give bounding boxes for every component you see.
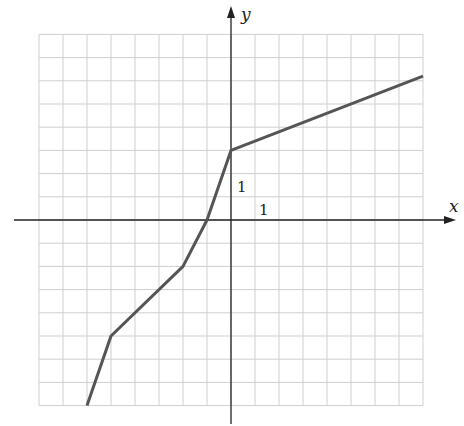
x-axis-label: x bbox=[449, 196, 459, 216]
axes bbox=[14, 6, 456, 424]
x-axis-arrow-icon bbox=[444, 216, 456, 224]
x-unit-tick-label: 1 bbox=[259, 201, 269, 219]
y-unit-tick-label: 1 bbox=[237, 178, 247, 196]
y-axis-label: y bbox=[240, 4, 251, 24]
coordinate-plane: x y 1 1 bbox=[0, 0, 464, 426]
y-axis-arrow-icon bbox=[227, 6, 235, 18]
